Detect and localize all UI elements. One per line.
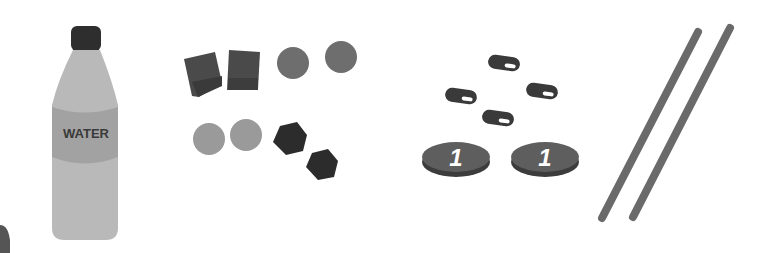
button-counter-4: [481, 109, 515, 127]
partial-object-bottom-left: [0, 225, 10, 253]
bottle-cap: [71, 26, 101, 51]
disc-mid-2: [325, 41, 357, 73]
disc-mid-1: [277, 47, 309, 79]
hexagon-1: [273, 122, 307, 155]
bottle-label-text: WATER: [63, 126, 110, 141]
water-bottle: WATER: [52, 26, 118, 240]
disc-light-1: [193, 123, 225, 155]
coin-value: 1: [538, 144, 551, 171]
button-counter-3: [444, 87, 478, 105]
button-counter-2: [525, 82, 559, 100]
disc-light-2: [230, 119, 262, 151]
button-counter-1: [487, 54, 521, 72]
coin-2: 1: [511, 142, 579, 177]
illustration-scene: WATER: [0, 0, 773, 253]
coin-value: 1: [449, 144, 462, 171]
hexagon-2: [306, 149, 338, 180]
block-1: [184, 52, 222, 97]
block-2: [227, 50, 260, 90]
coin-1: 1: [422, 142, 490, 177]
scene-canvas: WATER: [0, 0, 773, 253]
